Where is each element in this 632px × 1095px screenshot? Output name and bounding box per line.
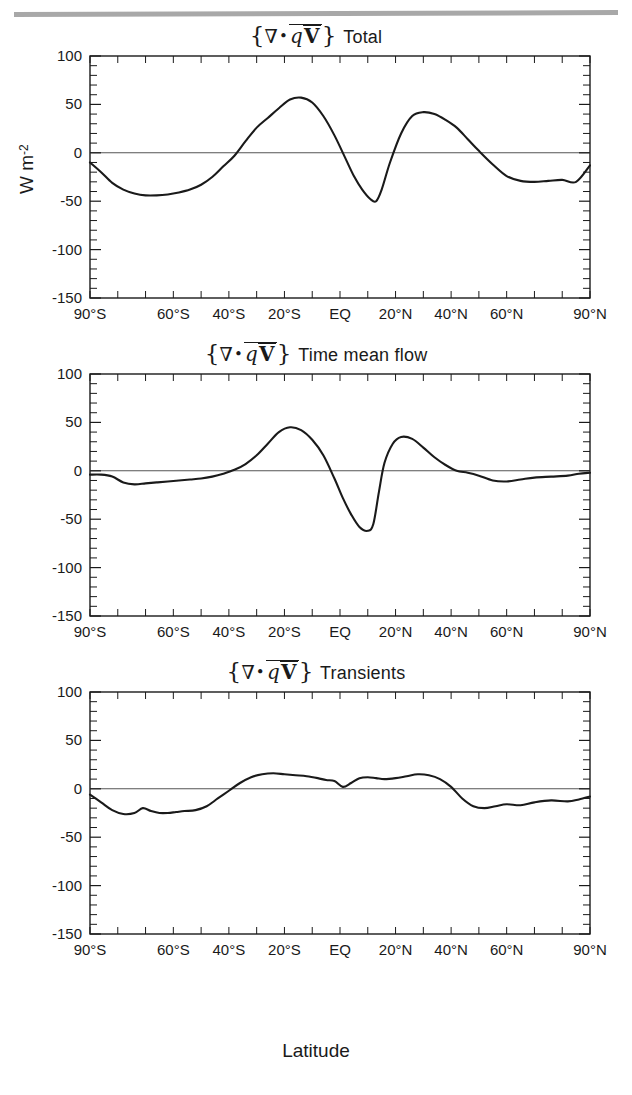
chart-title-words-total: Total [343,27,382,47]
figure-container: {∇•qV} Total 100500-50-100-15090°S60°S40… [0,22,632,976]
x-tick-label: 60°N [490,305,524,322]
x-tick-label: 40°S [213,305,246,322]
x-tick-label: 20°S [268,941,301,958]
chart-title-total: {∇•qV} Total [0,22,632,50]
x-tick-label: 90°S [74,623,107,640]
y-tick-label: 0 [74,462,82,479]
chart-panel-timemean: {∇•qV} Time mean flow 100500-50-100-1509… [0,340,632,658]
y-tick-label: -50 [60,828,82,845]
x-tick-label: 40°S [213,941,246,958]
y-tick-label: 100 [57,368,82,382]
x-tick-label: 60°S [157,941,190,958]
x-tick-label: 90°N [573,305,607,322]
y-tick-label: 100 [57,686,82,700]
data-curve-total [90,97,590,201]
nabla-icon: ∇ [241,661,254,683]
inner-overbar-group: V [303,25,321,48]
plot-svg-transients: 100500-50-100-15090°S60°S40°S20°SEQ20°N4… [0,686,632,976]
x-tick-label: 90°N [573,941,607,958]
y-tick-label: -100 [52,559,82,576]
x-tick-label: 60°S [157,305,190,322]
q-symbol: q [245,342,258,366]
chart-title-transients: {∇•qV} Transients [0,658,632,686]
y-tick-label: -50 [60,510,82,527]
chart-panel-transients: {∇•qV} Transients 100500-50-100-15090°S6… [0,658,632,976]
y-tick-label: -150 [52,289,82,306]
x-tick-label: 90°N [573,623,607,640]
x-tick-label: 20°S [268,305,301,322]
y-tick-label: -100 [52,241,82,258]
plot-svg-timemean: 100500-50-100-15090°S60°S40°S20°SEQ20°N4… [0,368,632,658]
overbar-group: qV [289,24,322,48]
x-tick-label: EQ [329,305,351,322]
chart-title-timemean: {∇•qV} Time mean flow [0,340,632,368]
x-axis-label: Latitude [0,1040,632,1062]
data-curve-timemean [90,427,590,531]
y-tick-label: -100 [52,877,82,894]
y-tick-label: 50 [65,95,82,112]
x-tick-label: 40°S [213,623,246,640]
dot-operator-icon: • [278,27,289,45]
x-tick-label: 60°N [490,941,524,958]
data-curve-transients [90,773,590,814]
nabla-icon: ∇ [220,343,233,365]
x-tick-label: 90°S [74,941,107,958]
v-symbol: V [304,24,320,48]
plot-area-total: 100500-50-100-15090°S60°S40°S20°SEQ20°N4… [0,50,632,340]
brace-close: } [277,340,292,366]
nabla-icon: ∇ [265,25,278,47]
plot-svg-total: 100500-50-100-15090°S60°S40°S20°SEQ20°N4… [0,50,632,340]
x-tick-label: 20°S [268,623,301,640]
inner-overbar-group: V [258,343,276,366]
brace-open: { [227,658,242,684]
x-tick-label: 60°N [490,623,524,640]
x-tick-label: 40°N [434,623,468,640]
x-tick-label: 90°S [74,305,107,322]
y-tick-label: 50 [65,413,82,430]
brace-open: { [250,22,265,48]
brace-close: } [299,658,314,684]
overbar-group: qV [266,660,299,684]
q-symbol: q [290,24,303,48]
axis-group-total: 100500-50-100-15090°S60°S40°S20°SEQ20°N4… [52,50,607,322]
dot-operator-icon: • [233,345,244,363]
y-tick-label: -150 [52,925,82,942]
y-tick-label: -150 [52,607,82,624]
x-tick-label: 40°N [434,305,468,322]
y-tick-label: 0 [74,144,82,161]
axis-group-transients: 100500-50-100-15090°S60°S40°S20°SEQ20°N4… [52,686,607,958]
chart-title-words-timemean: Time mean flow [298,345,427,365]
v-symbol: V [259,342,275,366]
y-axis-label-total: W m-2 [16,168,38,194]
y-tick-label: -50 [60,192,82,209]
x-tick-label: 60°S [157,623,190,640]
x-tick-label: EQ [329,623,351,640]
x-tick-label: 20°N [379,941,413,958]
y-tick-label: 0 [74,780,82,797]
inner-overbar-group: V [280,661,298,684]
x-tick-label: 20°N [379,305,413,322]
brace-open: { [205,340,220,366]
plot-area-timemean: 100500-50-100-15090°S60°S40°S20°SEQ20°N4… [0,368,632,658]
overbar-group: qV [244,342,277,366]
brace-close: } [322,22,337,48]
x-tick-label: EQ [329,941,351,958]
v-symbol: V [281,660,297,684]
dot-operator-icon: • [255,663,266,681]
y-tick-label: 100 [57,50,82,64]
axis-group-timemean: 100500-50-100-15090°S60°S40°S20°SEQ20°N4… [52,368,607,640]
y-tick-label: 50 [65,731,82,748]
x-tick-label: 20°N [379,623,413,640]
q-symbol: q [267,660,280,684]
x-tick-label: 40°N [434,941,468,958]
chart-title-words-transients: Transients [320,663,405,683]
chart-panel-total: {∇•qV} Total 100500-50-100-15090°S60°S40… [0,22,632,340]
plot-area-transients: 100500-50-100-15090°S60°S40°S20°SEQ20°N4… [0,686,632,976]
page-divider-rule [14,10,618,17]
